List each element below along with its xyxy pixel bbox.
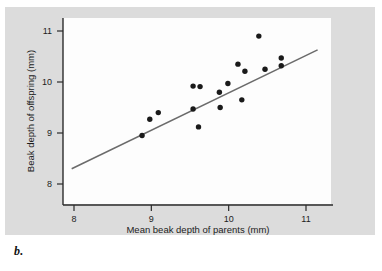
scatter-point [262, 67, 267, 72]
y-tick-label: 8 [47, 179, 52, 189]
scatter-point [225, 81, 230, 86]
figure-caption-label: b. [14, 244, 24, 259]
scatter-point [156, 110, 161, 115]
scatter-point [217, 105, 222, 110]
x-tick-label: 9 [149, 214, 154, 224]
x-axis-ticks: 891011 [71, 205, 310, 224]
scatter-point [190, 83, 195, 88]
scatter-point [239, 97, 244, 102]
axes [63, 18, 333, 205]
scatter-point [235, 61, 240, 66]
y-tick-label: 9 [47, 128, 52, 138]
x-tick-label: 8 [71, 214, 76, 224]
y-tick-label: 11 [43, 26, 52, 36]
scatter-point [217, 90, 222, 95]
scatter-chart: 891011 891011 Mean beak depth of parents… [0, 0, 382, 271]
x-tick-label: 10 [224, 214, 234, 224]
scatter-point [139, 133, 144, 138]
scatter-point [279, 55, 284, 60]
scatter-point [256, 33, 261, 38]
scatter-point [279, 63, 284, 68]
scatter-point [197, 84, 202, 89]
x-tick-label: 11 [301, 214, 310, 224]
x-axis-title: Mean beak depth of parents (mm) [126, 224, 269, 235]
scatter-point [196, 124, 201, 129]
y-axis-ticks: 891011 [42, 26, 63, 189]
y-axis-title: Beak depth of offspring (mm) [25, 50, 36, 172]
scatter-point [242, 69, 247, 74]
y-tick-label: 10 [42, 77, 52, 87]
figure-panel: 891011 891011 Mean beak depth of parents… [0, 0, 382, 271]
data-points [139, 33, 284, 138]
scatter-point [147, 117, 152, 122]
scatter-point [190, 106, 195, 111]
